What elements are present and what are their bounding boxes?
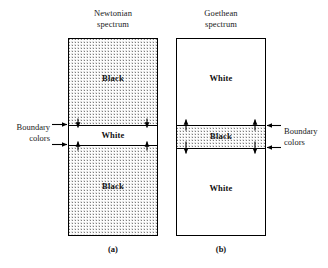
figure-spectra-comparison: Newtonian spectrum Goethean spectrum Bla…: [0, 0, 328, 268]
panel-b-caption: (b): [176, 244, 266, 254]
arrow-overlay: [0, 0, 328, 268]
panel-a-caption: (a): [68, 244, 158, 254]
